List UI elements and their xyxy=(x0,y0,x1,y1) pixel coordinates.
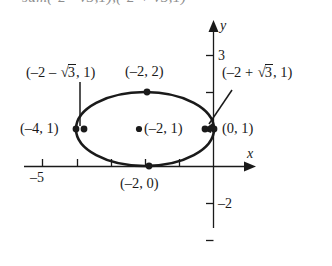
label-bottom-vertex: (–2, 0) xyxy=(120,176,159,191)
point-left-vertex xyxy=(73,126,80,133)
point-top-vertex xyxy=(144,89,151,96)
x-tick-label-minus5: –5 xyxy=(30,170,44,186)
radical-3-left: √3 xyxy=(60,64,76,80)
y-tick-label-3: 3 xyxy=(218,48,225,64)
y-axis-ticks xyxy=(206,56,214,241)
label-focus-left-prefix: (–2 – xyxy=(26,64,60,80)
label-right-vertex: (0, 1) xyxy=(222,121,253,136)
point-center xyxy=(136,126,142,132)
point-focus-left xyxy=(81,126,88,133)
y-tick-label-minus2: –2 xyxy=(218,196,232,212)
x-axis-label: x xyxy=(247,146,253,162)
ellipse-graph-figure: sum(-2 - v3,1),(-2 + v3,1) xyxy=(0,0,332,266)
label-focus-right: (–2 + √3, 1) xyxy=(222,64,292,80)
point-focus-right xyxy=(202,126,209,133)
label-left-vertex: (–4, 1) xyxy=(20,121,59,136)
label-focus-right-prefix: (–2 + xyxy=(222,64,257,80)
point-right-vertex xyxy=(211,126,218,133)
label-center: (–2, 1) xyxy=(144,121,183,136)
y-axis-label: y xyxy=(220,18,226,34)
radicand-right: 3 xyxy=(265,64,273,80)
label-focus-left: (–2 – √3, 1) xyxy=(26,64,95,80)
label-focus-right-suffix: , 1) xyxy=(273,64,292,80)
radicand-left: 3 xyxy=(68,64,76,80)
point-bottom-vertex xyxy=(146,163,153,170)
label-focus-left-suffix: , 1) xyxy=(76,64,95,80)
radical-3-right: √3 xyxy=(257,64,273,80)
label-top-vertex: (–2, 2) xyxy=(125,64,164,79)
